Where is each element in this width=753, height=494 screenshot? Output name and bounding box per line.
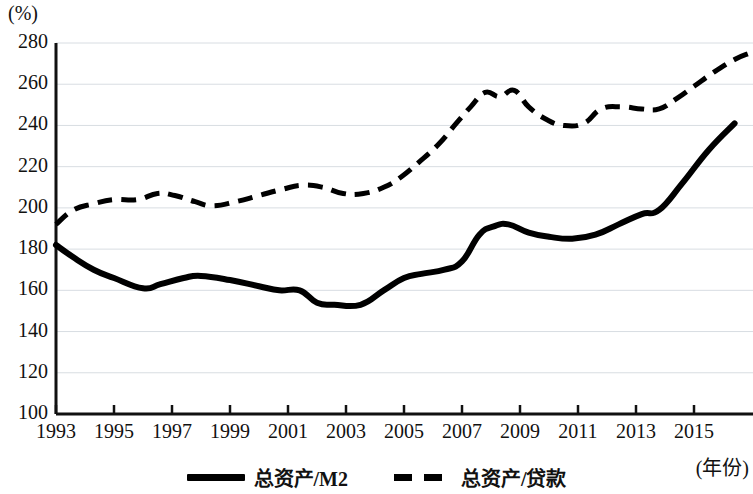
x-tick-label: 1997 bbox=[140, 420, 204, 443]
legend-label-total-assets-loans: 总资产/贷款 bbox=[461, 463, 567, 492]
y-tick-label: 280 bbox=[2, 30, 48, 53]
legend-label-total-assets-m2: 总资产/M2 bbox=[254, 463, 348, 492]
series-line-total-assets-loans bbox=[56, 53, 749, 224]
x-tick-label: 2009 bbox=[488, 420, 552, 443]
y-tick-label: 120 bbox=[2, 360, 48, 383]
y-tick-label: 180 bbox=[2, 236, 48, 259]
gridlines-group bbox=[56, 43, 753, 373]
x-tick-label: 2003 bbox=[314, 420, 378, 443]
y-tick-label: 260 bbox=[2, 71, 48, 94]
legend-entry-total-assets-m2: 总资产/M2 bbox=[187, 463, 348, 492]
x-tick-label: 2011 bbox=[546, 420, 610, 443]
y-tick-label: 240 bbox=[2, 112, 48, 135]
x-tick-label: 2005 bbox=[372, 420, 436, 443]
series-line-total-assets-m2 bbox=[56, 123, 735, 306]
y-tick-label: 220 bbox=[2, 154, 48, 177]
x-tick-label: 2013 bbox=[604, 420, 668, 443]
chart-legend: 总资产/M2 总资产/贷款 bbox=[0, 463, 753, 492]
legend-swatch-dashed-line bbox=[394, 474, 452, 481]
y-tick-label: 200 bbox=[2, 195, 48, 218]
x-tick-label: 2015 bbox=[662, 420, 726, 443]
x-tick-label: 2007 bbox=[430, 420, 494, 443]
x-tick-label: 1995 bbox=[82, 420, 146, 443]
x-tick-label: 1999 bbox=[198, 420, 262, 443]
x-tick-label: 1993 bbox=[24, 420, 88, 443]
legend-swatch-solid-line bbox=[187, 474, 245, 481]
legend-entry-total-assets-loans: 总资产/贷款 bbox=[394, 463, 567, 492]
chart-figure: (%) 280260240220200180160140120100 19931… bbox=[0, 0, 753, 494]
y-tick-label: 140 bbox=[2, 319, 48, 342]
x-tick-label: 2001 bbox=[256, 420, 320, 443]
y-tick-label: 160 bbox=[2, 277, 48, 300]
